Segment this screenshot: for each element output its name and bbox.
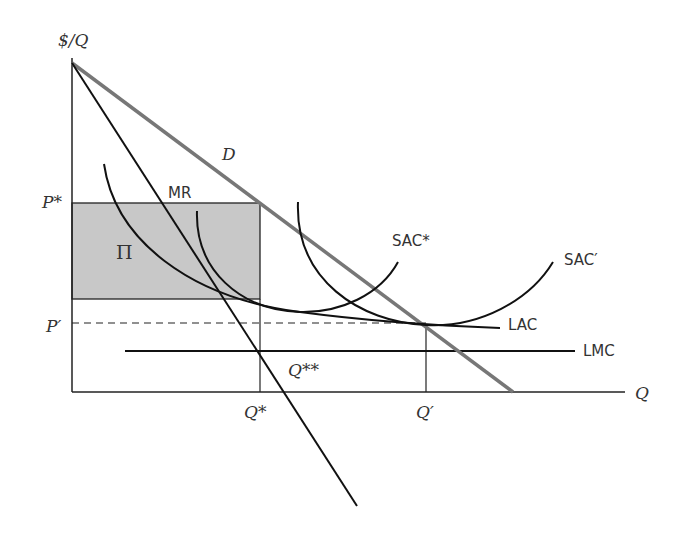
q-double-star-label: Q** [288,362,319,379]
mr-label: MR [168,186,191,201]
x-axis-label: Q [635,385,649,402]
profit-rectangle [72,203,260,299]
lmc-label: LMC [583,344,615,359]
sac-prime-label: SAC′ [564,253,598,268]
demand-label: D [222,146,236,163]
profit-label: Π [116,243,133,262]
diagram: $/Q Q P* P′ Q* Q′ Q** D MR SAC* SAC′ LAC… [0,0,681,539]
lac-label: LAC [508,318,537,333]
diagram-canvas [0,0,681,539]
p-star-label: P* [42,194,62,211]
q-star-label: Q* [244,404,266,421]
p-prime-label: P′ [46,318,61,335]
y-axis-label: $/Q [58,32,88,49]
sac-star-label: SAC* [392,234,430,249]
q-prime-label: Q′ [416,404,434,421]
